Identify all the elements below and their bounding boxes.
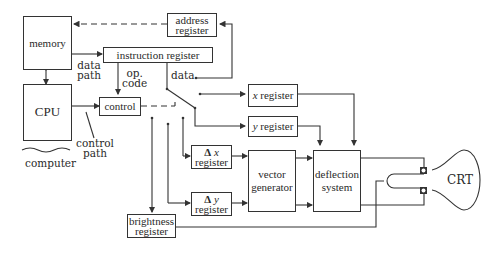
delta-x-register-block: Δ x register	[191, 145, 232, 169]
data-path-label: data path	[77, 60, 101, 80]
y-register-var: y	[253, 121, 258, 132]
delta-y-register-block: Δ y register	[191, 192, 232, 216]
vector-generator-block: vector generator	[248, 150, 296, 212]
diagram-canvas: memory CPU address register instruction …	[0, 0, 491, 255]
memory-label: memory	[29, 38, 66, 49]
address-register-label-2: register	[176, 25, 209, 36]
y-register-label: register	[260, 121, 293, 132]
computer-label: computer	[25, 158, 76, 169]
deflection-system-block: deflection system	[313, 150, 361, 212]
control-label: control	[104, 101, 135, 112]
deflection-system-label-1: deflection	[315, 168, 359, 181]
cpu-label: CPU	[35, 107, 60, 118]
x-register-label: register	[260, 90, 293, 101]
delta-y-register-label: register	[195, 204, 228, 215]
brightness-register-block: brightness register	[127, 214, 176, 238]
x-register-block: x register	[248, 84, 298, 107]
control-block: control	[99, 97, 141, 116]
data-label: data	[171, 70, 194, 81]
instruction-register-block: instruction register	[103, 47, 213, 63]
cpu-block: CPU	[23, 84, 72, 141]
delta-x-register-label: register	[195, 157, 228, 168]
op-code-label: op. code	[122, 68, 147, 88]
vector-generator-label-2: generator	[251, 181, 293, 194]
memory-block: memory	[23, 16, 72, 70]
control-path-label: control path	[76, 138, 114, 158]
x-register-var: x	[253, 90, 258, 101]
brightness-register-label-2: register	[135, 226, 168, 237]
deflection-system-label-2: system	[322, 181, 353, 194]
crt-label: CRT	[447, 175, 473, 186]
crt-plate-icons	[420, 167, 427, 194]
instruction-register-label: instruction register	[117, 50, 200, 61]
vector-generator-label-1: vector	[258, 168, 285, 181]
connection-lines	[0, 0, 491, 255]
address-register-block: address register	[167, 13, 217, 37]
y-register-block: y register	[248, 116, 298, 137]
